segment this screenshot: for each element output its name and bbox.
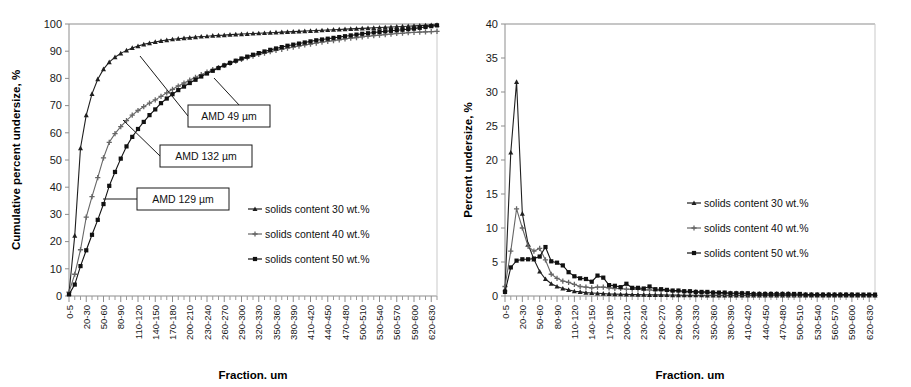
marker-square — [705, 290, 709, 294]
x-tick-label: 410-420 — [742, 305, 753, 340]
marker-square — [337, 35, 341, 39]
marker-cross — [147, 101, 152, 106]
chart-root: 05101520253035400-520-3050-6080-90110-12… — [462, 18, 878, 381]
x-tick-label: 170-180 — [604, 305, 615, 340]
plot-frame — [69, 24, 437, 296]
x-tick-label: 470-480 — [777, 305, 788, 340]
marker-square — [285, 44, 289, 48]
marker-triangle — [508, 150, 513, 155]
marker-square — [78, 264, 82, 268]
marker-square — [389, 29, 393, 33]
marker-square — [251, 53, 255, 57]
y-axis-title: Cumulative percent undersize, % — [10, 70, 22, 250]
series-2 — [66, 29, 439, 295]
marker-square — [188, 81, 192, 85]
y-tick-label: 35 — [486, 52, 498, 64]
marker-square — [861, 293, 865, 297]
x-tick-label: 20-30 — [81, 305, 92, 329]
percent-undersize-chart: 05101520253035400-520-3050-6080-90110-12… — [455, 0, 911, 387]
x-tick-label: 380-390 — [288, 305, 299, 340]
marker-triangle — [78, 145, 83, 150]
x-tick-label: 260-270 — [656, 305, 667, 340]
y-tick-label: 25 — [486, 120, 498, 132]
y-tick-label: 30 — [486, 86, 498, 98]
marker-triangle — [520, 211, 525, 216]
marker-square — [561, 263, 565, 267]
marker-square — [692, 251, 696, 255]
x-tick-label: 260-270 — [219, 305, 230, 340]
marker-cross — [252, 231, 257, 236]
marker-square — [73, 282, 77, 286]
marker-square — [659, 287, 663, 291]
marker-square — [423, 25, 427, 29]
marker-square — [320, 37, 324, 41]
marker-square — [792, 292, 796, 296]
marker-square — [584, 277, 588, 281]
y-tick-label: 100 — [44, 18, 62, 30]
marker-cross — [72, 272, 77, 277]
marker-square — [377, 30, 381, 34]
marker-square — [711, 291, 715, 295]
y-tick-label: 90 — [50, 45, 62, 57]
x-tick-label: 620-630 — [864, 305, 875, 340]
marker-square — [757, 292, 761, 296]
series-line-2 — [505, 209, 875, 295]
marker-square — [653, 287, 657, 291]
marker-square — [274, 46, 278, 50]
marker-square — [717, 291, 721, 295]
x-tick-label: 230-240 — [638, 305, 649, 340]
marker-cross — [691, 225, 696, 230]
marker-square — [856, 293, 860, 297]
x-tick-label: 440-450 — [322, 305, 333, 340]
x-tick-label: 80-90 — [552, 305, 563, 329]
marker-square — [624, 282, 628, 286]
marker-cross — [423, 29, 428, 34]
marker-triangle — [95, 77, 100, 82]
marker-square — [165, 96, 169, 100]
x-tick-label: 50-60 — [534, 305, 545, 329]
x-tick-label: 500-510 — [794, 305, 805, 340]
series-line-3 — [69, 25, 437, 294]
marker-square — [124, 144, 128, 148]
marker-square — [809, 293, 813, 297]
annotation-label: AMD 129 µm — [152, 193, 214, 205]
marker-square — [354, 33, 358, 37]
marker-cross — [572, 282, 577, 287]
marker-square — [90, 233, 94, 237]
marker-square — [113, 170, 117, 174]
marker-square — [303, 40, 307, 44]
marker-square — [590, 280, 594, 284]
marker-square — [671, 288, 675, 292]
marker-square — [257, 51, 261, 55]
plot-frame — [505, 24, 875, 296]
marker-square — [821, 293, 825, 297]
y-tick-label: 0 — [492, 290, 498, 302]
marker-square — [234, 59, 238, 63]
marker-square — [193, 78, 197, 82]
marker-square — [239, 56, 243, 60]
x-tick-label: 470-480 — [340, 305, 351, 340]
marker-square — [780, 292, 784, 296]
percent-undersize-svg: 05101520253035400-520-3050-6080-90110-12… — [455, 0, 911, 387]
marker-square — [867, 293, 871, 297]
marker-square — [326, 37, 330, 41]
marker-square — [153, 107, 157, 111]
marker-square — [343, 34, 347, 38]
x-tick-label: 560-570 — [391, 305, 402, 340]
marker-square — [314, 38, 318, 42]
marker-square — [147, 113, 151, 117]
x-tick-label: 50-60 — [98, 305, 109, 329]
marker-square — [119, 157, 123, 161]
marker-cross — [508, 249, 513, 254]
marker-square — [101, 202, 105, 206]
marker-square — [688, 289, 692, 293]
y-tick-label: 5 — [492, 256, 498, 268]
marker-square — [740, 291, 744, 295]
x-tick-label: 230-240 — [202, 305, 213, 340]
marker-square — [832, 293, 836, 297]
marker-cross — [89, 194, 94, 199]
marker-square — [699, 290, 703, 294]
chart-root: 01020304050607080901000-520-3050-6080-90… — [10, 18, 440, 381]
y-tick-label: 50 — [50, 154, 62, 166]
marker-square — [107, 184, 111, 188]
